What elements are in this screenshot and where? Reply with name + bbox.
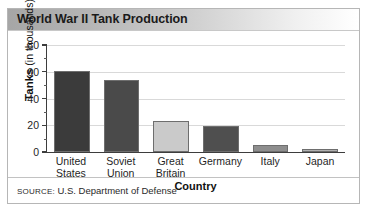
bar-slot (246, 45, 296, 152)
bar-series (47, 45, 345, 152)
y-axis-title: Tanks (in thousands) (23, 0, 35, 104)
bar-slot (146, 45, 196, 152)
x-axis-tick-label: Italy (245, 156, 295, 168)
y-axis-tick-label: 40 (27, 93, 39, 105)
y-axis-title-rest: (in thousands) (23, 0, 35, 69)
x-axis-tick-label-line: Germany (196, 156, 246, 168)
x-axis-tick-label: UnitedStates (46, 156, 96, 179)
source-divider (8, 177, 359, 178)
y-axis-tick-label: 20 (27, 119, 39, 131)
bar-slot (47, 45, 97, 152)
bar-slot (295, 45, 345, 152)
bar-soviet-union (104, 80, 140, 152)
x-axis-tick-label-line: Soviet (96, 156, 146, 168)
bar-slot (196, 45, 246, 152)
bar-italy (253, 145, 289, 152)
x-axis-tick-label: Germany (196, 156, 246, 168)
x-axis-tick-label: Japan (295, 156, 345, 168)
x-axis-tick-label-line: Japan (295, 156, 345, 168)
plot-area: 020406080 (46, 45, 345, 153)
bar-united-states (54, 71, 90, 152)
y-axis-tick-label: 80 (27, 39, 39, 51)
chart-figure: World War II Tank Production Tanks (in t… (7, 8, 360, 204)
source-value: U.S. Department of Defense (58, 185, 177, 196)
chart-title-banner: World War II Tank Production (8, 9, 359, 31)
x-axis-tick-label-line: United (46, 156, 96, 168)
bar-great-britain (153, 121, 189, 152)
x-axis-tick-label: GreatBritain (146, 156, 196, 179)
bar-germany (203, 126, 239, 152)
chart-title: World War II Tank Production (17, 12, 188, 26)
x-axis-tick-label: SovietUnion (96, 156, 146, 179)
x-axis-tick-label-line: Italy (245, 156, 295, 168)
bar-slot (97, 45, 147, 152)
bar-japan (302, 149, 338, 152)
source-note: SOURCE: U.S. Department of Defense (17, 185, 177, 196)
x-axis-tick-labels: UnitedStatesSovietUnionGreatBritainGerma… (46, 156, 345, 182)
y-axis-tick-label: 60 (27, 66, 39, 78)
x-axis-tick-label-line: Great (146, 156, 196, 168)
y-axis-tick-label: 0 (33, 146, 39, 158)
source-label: SOURCE: (17, 187, 55, 196)
